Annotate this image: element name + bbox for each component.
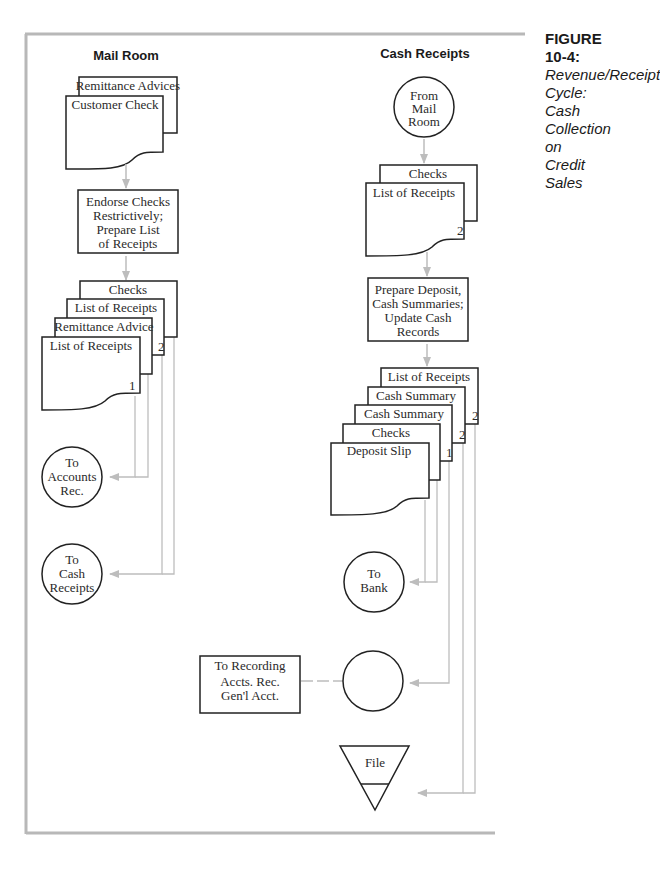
process-text: Prepare Deposit, — [375, 282, 462, 297]
process-text: Records — [397, 324, 440, 339]
copy-number: 2 — [459, 427, 466, 442]
copy-number: 2 — [472, 408, 479, 423]
copy-number: 2 — [158, 339, 165, 354]
process-text: Endorse Checks — [86, 194, 170, 209]
connector-to-recording — [343, 651, 403, 711]
column-heading-cash-receipts: Cash Receipts — [380, 46, 470, 61]
doc-list-of-receipts: List of Receipts — [50, 338, 132, 353]
doc-checks: Checks — [409, 166, 447, 181]
doc-checks: Checks — [109, 282, 147, 297]
process-text: Cash Summaries; — [372, 296, 463, 311]
doc-cash-summary: Cash Summary — [364, 406, 444, 421]
process-text: Update Cash — [385, 310, 452, 325]
caption-line: Credit Sales — [545, 156, 625, 192]
doc-cash-summary: Cash Summary — [376, 388, 456, 403]
figure-label: FIGURE 10-4: — [545, 30, 625, 66]
annotation-text: Accts. Rec. — [220, 674, 280, 689]
column-heading-mail-room: Mail Room — [93, 48, 159, 63]
doc-list-of-receipts: List of Receipts — [373, 185, 455, 200]
doc-remittance-advice: Remittance Advice — [54, 319, 154, 334]
process-text: Restrictively; — [93, 208, 163, 223]
figure-caption: FIGURE 10-4: Revenue/Receipt Cycle: Cash… — [545, 30, 625, 192]
connector-text: To — [367, 566, 381, 581]
caption-line: Cycle: Cash — [545, 84, 625, 120]
connector-text: Rec. — [60, 483, 83, 498]
caption-line: Revenue/Receipt — [545, 66, 625, 84]
annotation-text: Gen'l Acct. — [221, 688, 279, 703]
process-text: of Receipts — [99, 236, 158, 251]
connector-text: Accounts — [47, 469, 96, 484]
doc-list-of-receipts: List of Receipts — [75, 300, 157, 315]
file-label: File — [365, 755, 385, 770]
doc-checks: Checks — [372, 425, 410, 440]
connector-text: To — [65, 552, 79, 567]
connector-text: Bank — [360, 580, 388, 595]
connector-text: Cash — [59, 566, 86, 581]
doc-remittance-advices: Remittance Advices — [76, 78, 180, 93]
caption-line: Collection on — [545, 120, 625, 156]
connector-text: Room — [408, 114, 440, 129]
connector-text: To — [65, 455, 79, 470]
connector-text: Receipts — [50, 580, 95, 595]
process-text: Prepare List — [96, 222, 160, 237]
annotation-text: To Recording — [215, 658, 286, 673]
copy-number: 2 — [457, 223, 464, 238]
doc-list-of-receipts: List of Receipts — [388, 369, 470, 384]
doc-deposit-slip: Deposit Slip — [347, 443, 412, 458]
copy-number: 1 — [446, 445, 453, 460]
doc-customer-check: Customer Check — [71, 97, 159, 112]
copy-number: 1 — [129, 378, 136, 393]
